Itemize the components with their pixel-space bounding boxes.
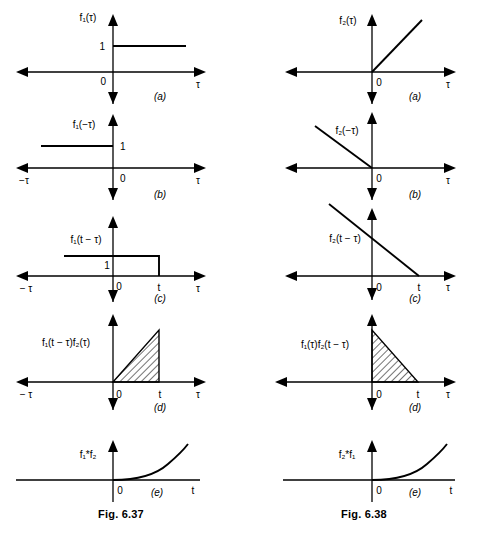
x-axis-label: t bbox=[450, 485, 453, 496]
panel-left-d: f₁(t − τ)f₂(τ) 0 t − τ τ (d) bbox=[0, 310, 242, 414]
t-mark-label: t bbox=[417, 389, 420, 400]
function-label: f₂(t − τ) bbox=[329, 233, 360, 244]
panel-sublabel: (c) bbox=[409, 293, 421, 304]
origin-label: 0 bbox=[116, 281, 122, 292]
x-axis-label: τ bbox=[446, 79, 450, 90]
panel-sublabel: (b) bbox=[409, 189, 421, 200]
function-label: f₁*f₂ bbox=[80, 449, 97, 460]
vertical-axis bbox=[108, 14, 118, 104]
x-axis-left-label: − τ bbox=[20, 283, 33, 294]
horizontal-axis bbox=[275, 377, 456, 387]
horizontal-axis bbox=[16, 163, 206, 173]
figure-caption-left: Fig. 6.37 bbox=[0, 508, 242, 520]
x-axis-left-label: −τ bbox=[19, 175, 29, 186]
x-axis-left-label: − τ bbox=[20, 389, 33, 400]
function-label: f₂(−τ) bbox=[335, 125, 358, 136]
vertical-axis bbox=[367, 112, 377, 200]
horizontal-axis bbox=[16, 271, 206, 281]
panel-right-c: f₂(t − τ) 0 t τ (c) bbox=[243, 200, 485, 304]
function-label: f₁(τ)f₂(t − τ) bbox=[301, 339, 349, 350]
signal-trace bbox=[372, 20, 422, 72]
convolution-curve bbox=[113, 444, 188, 480]
x-axis-label: τ bbox=[446, 175, 450, 186]
origin-label: 0 bbox=[376, 77, 382, 88]
origin-label: 0 bbox=[100, 76, 106, 87]
signal-trace bbox=[64, 256, 159, 276]
t-mark-label: t bbox=[159, 389, 162, 400]
x-axis-label: τ bbox=[196, 175, 200, 186]
vertical-axis bbox=[367, 14, 377, 104]
shaded-overlap-region bbox=[372, 330, 418, 382]
panel-sublabel: (a) bbox=[154, 91, 166, 102]
panel-right-a: f₂(τ) 0 τ (a) bbox=[243, 8, 485, 104]
origin-label: 0 bbox=[376, 282, 382, 293]
figure-sheet: f₁(τ) 1 0 τ (a) f₁( bbox=[0, 0, 485, 536]
figure-column-left: f₁(τ) 1 0 τ (a) f₁( bbox=[0, 0, 242, 536]
horizontal-axis bbox=[285, 67, 456, 77]
value-tick-label: 1 bbox=[104, 260, 110, 271]
origin-label: 0 bbox=[120, 173, 126, 184]
panel-sublabel: (a) bbox=[409, 91, 421, 102]
convolution-curve bbox=[372, 444, 447, 480]
origin-label: 0 bbox=[376, 173, 382, 184]
panel-right-d: f₁(τ)f₂(t − τ) 0 t τ (d) bbox=[243, 310, 485, 414]
x-axis-label: t bbox=[192, 485, 195, 496]
panel-sublabel: (d) bbox=[154, 402, 166, 413]
shaded-overlap-region bbox=[113, 330, 159, 382]
panel-left-b: f₁(−τ) 1 0 −τ τ (b) bbox=[0, 110, 242, 202]
origin-label: 0 bbox=[376, 389, 382, 400]
function-label: f₁(t − τ) bbox=[71, 234, 102, 245]
function-label: f₁(−τ) bbox=[73, 119, 96, 130]
panel-right-e: f₂*f₁ 0 t (e) bbox=[243, 432, 485, 504]
panel-sublabel: (b) bbox=[154, 189, 166, 200]
t-mark-label: t bbox=[418, 282, 421, 293]
panel-left-e: f₁*f₂ 0 t (e) bbox=[0, 432, 242, 504]
horizontal-axis bbox=[16, 377, 206, 387]
horizontal-axis bbox=[16, 67, 206, 77]
x-axis-label: τ bbox=[446, 389, 450, 400]
function-label: f₂(τ) bbox=[339, 15, 356, 26]
origin-label: 0 bbox=[116, 389, 122, 400]
panel-right-b: f₂(−τ) 0 τ (b) bbox=[243, 110, 485, 202]
origin-label: 0 bbox=[376, 485, 382, 496]
function-label: f₂*f₁ bbox=[339, 449, 356, 460]
panel-sublabel: (d) bbox=[409, 402, 421, 413]
x-axis-label: τ bbox=[196, 283, 200, 294]
x-axis-label: τ bbox=[196, 389, 200, 400]
panel-sublabel: (e) bbox=[409, 487, 421, 498]
panel-sublabel: (c) bbox=[154, 293, 166, 304]
figure-column-right: f₂(τ) 0 τ (a) f₂(−τ) bbox=[243, 0, 485, 536]
function-label: f₁(t − τ)f₂(τ) bbox=[42, 337, 90, 348]
figure-caption-right: Fig. 6.38 bbox=[243, 508, 485, 520]
function-label: f₁(τ) bbox=[80, 12, 97, 23]
panel-left-a: f₁(τ) 1 0 τ (a) bbox=[0, 8, 242, 104]
value-tick-label: 1 bbox=[120, 141, 126, 152]
x-axis-label: τ bbox=[446, 282, 450, 293]
x-axis-label: τ bbox=[196, 79, 200, 90]
t-mark-label: t bbox=[158, 282, 161, 293]
panel-left-c: f₁(t − τ) 1 0 t − τ τ (c) bbox=[0, 208, 242, 304]
panel-sublabel: (e) bbox=[151, 487, 163, 498]
horizontal-axis bbox=[285, 271, 456, 281]
vertical-axis bbox=[108, 114, 118, 200]
value-tick-label: 1 bbox=[99, 41, 105, 52]
origin-label: 0 bbox=[117, 485, 123, 496]
